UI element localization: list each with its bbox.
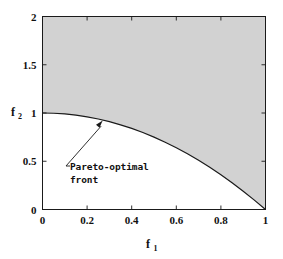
- pareto-front-figure: 00.20.40.60.81 00.511.52 f 1 f 2 Pareto-…: [0, 0, 283, 259]
- y-axis-tick-label: 1.5: [23, 59, 37, 71]
- y-axis-title-subscript: 2: [18, 112, 22, 121]
- x-axis-tick-labels: 00.20.40.60.81: [40, 214, 269, 226]
- x-axis-tick-label: 1: [263, 214, 269, 226]
- y-axis-title-base: f: [11, 105, 16, 119]
- x-axis-tick-label: 0.4: [125, 214, 139, 226]
- y-axis-tick-labels: 00.511.52: [23, 11, 37, 216]
- y-axis-tick-label: 0.5: [23, 155, 37, 167]
- annotation-leader-line: [66, 126, 101, 166]
- x-axis-tick-label: 0.6: [169, 214, 183, 226]
- y-axis-title: f 2: [11, 105, 22, 121]
- x-axis-title-base: f: [146, 237, 151, 251]
- annotation-label-line1: Pareto-optimal: [70, 161, 149, 172]
- x-axis-tick-label: 0: [40, 214, 46, 226]
- y-axis-tick-label: 0: [31, 204, 37, 216]
- annotation-arrowhead-icon: [96, 121, 103, 128]
- x-axis-tick-label: 0.2: [80, 214, 94, 226]
- y-axis-tick-label: 1: [31, 107, 37, 119]
- x-axis-title: f 1: [146, 237, 158, 253]
- plot-canvas: 00.20.40.60.81 00.511.52 f 1 f 2 Pareto-…: [0, 0, 283, 259]
- y-axis-tick-label: 2: [31, 11, 37, 23]
- x-axis-tick-label: 0.8: [214, 214, 228, 226]
- annotation-label-line2: front: [70, 174, 98, 185]
- x-axis-title-subscript: 1: [154, 244, 158, 253]
